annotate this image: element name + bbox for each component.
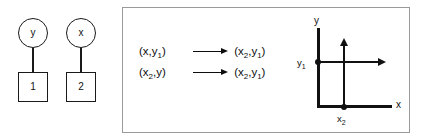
y1-tick-label: y1 (297, 58, 306, 68)
rule-2-source-mid: ,y (153, 66, 162, 78)
left-node-graph: y 1 x 2 (0, 0, 122, 140)
rule-2-target: (x2,y1) (234, 67, 289, 79)
circle-node-x-label: x (79, 28, 84, 38)
circle-node-y[interactable]: y (18, 18, 48, 48)
rule-1-target-mid: ,y (248, 45, 257, 57)
rule-2-source-suffix: ) (162, 66, 166, 78)
transformation-rule-row: (x,y1) (x2,y1) (139, 41, 289, 62)
rule-1-source-prefix: (x,y (139, 45, 158, 57)
arrow-shaft (193, 72, 223, 73)
arrow-head (378, 58, 386, 66)
x2-tick-label: x2 (337, 114, 346, 124)
rule-1-source-suffix: ) (162, 45, 166, 57)
rule-1-target-suffix: ) (262, 45, 266, 57)
arrow-head (221, 69, 228, 75)
rule-1-source: (x,y1) (139, 46, 188, 58)
rule-2-target-suffix: ) (262, 66, 266, 78)
transformation-panel: (x,y1) (x2,y1) (x2,y) (x2,y1) y (122, 7, 410, 133)
square-node-2[interactable]: 2 (66, 72, 96, 102)
right-arrow-icon (193, 47, 229, 57)
y-axis-label: y (314, 16, 319, 26)
circle-node-y-label: y (31, 28, 36, 38)
rule-2-source-prefix: (x (139, 66, 149, 78)
arrow-shaft (318, 61, 380, 63)
rule-2-source: (x2,y) (139, 67, 188, 79)
transformation-rule-row: (x2,y) (x2,y1) (139, 62, 289, 83)
arrow-shaft (193, 51, 223, 52)
x-axis-label: x (396, 100, 401, 110)
y1-tick-sub: 1 (302, 63, 306, 70)
transformation-rule-list: (x,y1) (x2,y1) (x2,y) (x2,y1) (139, 41, 289, 83)
diagram-canvas: y 1 x 2 (x,y1) (0, 0, 429, 140)
connector-line-x-2 (80, 48, 82, 72)
y-axis-line (317, 28, 320, 108)
circle-node-x[interactable]: x (66, 18, 96, 48)
x-axis-line (317, 105, 392, 108)
rule-2-target-prefix: (x (234, 66, 244, 78)
arrow-shaft (343, 46, 345, 108)
right-arrow-icon (193, 68, 229, 78)
rule-2-target-mid: ,y (248, 66, 257, 78)
square-node-1[interactable]: 1 (18, 72, 48, 102)
square-node-1-label: 1 (30, 82, 36, 92)
square-node-2-label: 2 (78, 82, 84, 92)
coordinate-plot: y x y1 x2 (293, 14, 405, 128)
arrow-head (340, 38, 348, 46)
arrow-head (221, 48, 228, 54)
rule-1-target-prefix: (x (234, 45, 244, 57)
rule-1-target: (x2,y1) (234, 46, 289, 58)
connector-line-y-1 (32, 48, 34, 72)
x2-tick-sub: 2 (342, 119, 346, 126)
